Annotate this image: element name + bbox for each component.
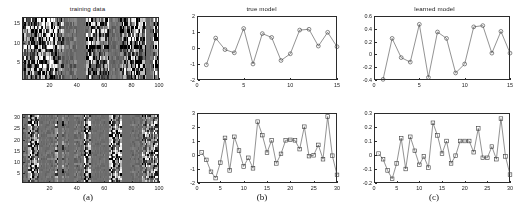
y-tick-label: 10 [0,40,20,46]
x-tick-mark [104,78,105,81]
y-tick-label: -0.4 [352,77,372,83]
y-tick-label: 0 [352,51,372,57]
y-tick-mark [23,23,26,24]
y-tick-mark [375,183,378,184]
x-tick-label: 25 [311,185,317,191]
y-tick-mark [375,16,378,17]
y-tick-label: 0.2 [352,39,372,45]
x-tick-label: 0 [373,185,376,191]
x-tick-label: 5 [418,82,421,88]
figure-root: training data 2040608010051015 true mode… [0,0,521,216]
x-tick-mark [290,78,291,81]
y-tick-mark [23,128,26,129]
x-tick-mark [510,181,511,184]
x-tick-mark [132,78,133,81]
panel-a-top: training data 2040608010051015 [0,0,175,105]
x-tick-mark [244,78,245,81]
y-tick-mark [375,80,378,81]
x-tick-mark [220,181,221,184]
y-tick-mark [23,173,26,174]
x-tick-mark [314,181,315,184]
x-tick-label: 100 [155,82,164,88]
x-tick-mark [419,181,420,184]
y-tick-label: 5 [0,170,20,176]
y-tick-label: -1 [175,61,195,67]
x-tick-mark [337,78,338,81]
y-tick-label: 2 [175,13,195,19]
y-tick-mark [198,80,201,81]
x-tick-mark [442,181,443,184]
y-tick-label: 0 [175,152,195,158]
y-tick-mark [23,162,26,163]
y-tick-label: 10 [0,159,20,165]
y-tick-mark [23,43,26,44]
y-tick-label: 15 [0,20,20,26]
y-tick-mark [375,67,378,68]
y-tick-label: -0.2 [352,180,372,186]
x-tick-label: 25 [484,185,490,191]
x-tick-label: 15 [439,185,445,191]
x-tick-label: 10 [462,82,468,88]
x-tick-label: 15 [334,82,340,88]
x-tick-label: 20 [46,82,52,88]
x-tick-mark [49,181,50,184]
caption-c: (c) [414,192,454,202]
y-tick-label: 0 [352,152,372,158]
x-tick-mark [510,78,511,81]
y-tick-label: -1 [175,166,195,172]
y-tick-label: 3 [175,110,195,116]
x-tick-mark [487,181,488,184]
x-tick-label: 5 [395,185,398,191]
data-point-marker [200,151,204,155]
training-data-heatmap-bottom [22,114,159,183]
x-tick-label: 10 [416,185,422,191]
y-tick-mark [198,48,201,49]
y-tick-mark [375,141,378,142]
y-tick-label: 0 [175,45,195,51]
panel-b-top: true model 051015-2-1012 [175,0,348,105]
y-tick-mark [23,140,26,141]
y-tick-mark [198,64,201,65]
y-tick-label: 0.2 [352,124,372,130]
x-tick-mark [337,181,338,184]
x-tick-mark [77,78,78,81]
heatmap-canvas [23,115,158,182]
true-model-series [175,0,348,105]
y-tick-mark [198,169,201,170]
panel-c-top: learned model 051015-0.4-0.200.20.40.6 [348,0,521,105]
x-tick-mark [49,78,50,81]
x-tick-label: 10 [287,82,293,88]
y-tick-mark [375,42,378,43]
y-tick-label: 0.6 [352,13,372,19]
y-tick-mark [198,141,201,142]
heatmap-canvas [23,18,158,79]
series-line [202,117,337,179]
y-tick-mark [375,113,378,114]
y-tick-mark [198,16,201,17]
x-tick-label: 10 [241,185,247,191]
x-tick-label: 0 [196,185,199,191]
x-tick-label: 40 [74,82,80,88]
x-tick-label: 60 [101,82,107,88]
y-tick-label: 15 [0,148,20,154]
x-tick-mark [267,181,268,184]
x-tick-label: 5 [219,185,222,191]
x-tick-mark [465,181,466,184]
y-tick-mark [375,29,378,30]
panel-a-top-title: training data [0,5,175,12]
x-tick-label: 0 [196,82,199,88]
y-tick-label: 30 [0,114,20,120]
x-tick-label: 20 [462,185,468,191]
y-tick-mark [198,183,201,184]
x-tick-label: 60 [101,185,107,191]
x-tick-mark [397,181,398,184]
y-tick-label: 0.3 [352,110,372,116]
y-tick-mark [198,127,201,128]
training-data-heatmap-top [22,17,159,80]
x-tick-label: 30 [507,185,513,191]
x-tick-label: 20 [46,185,52,191]
y-tick-label: -2 [175,180,195,186]
caption-b: (b) [242,192,282,202]
y-tick-label: 25 [0,125,20,131]
x-tick-mark [290,181,291,184]
